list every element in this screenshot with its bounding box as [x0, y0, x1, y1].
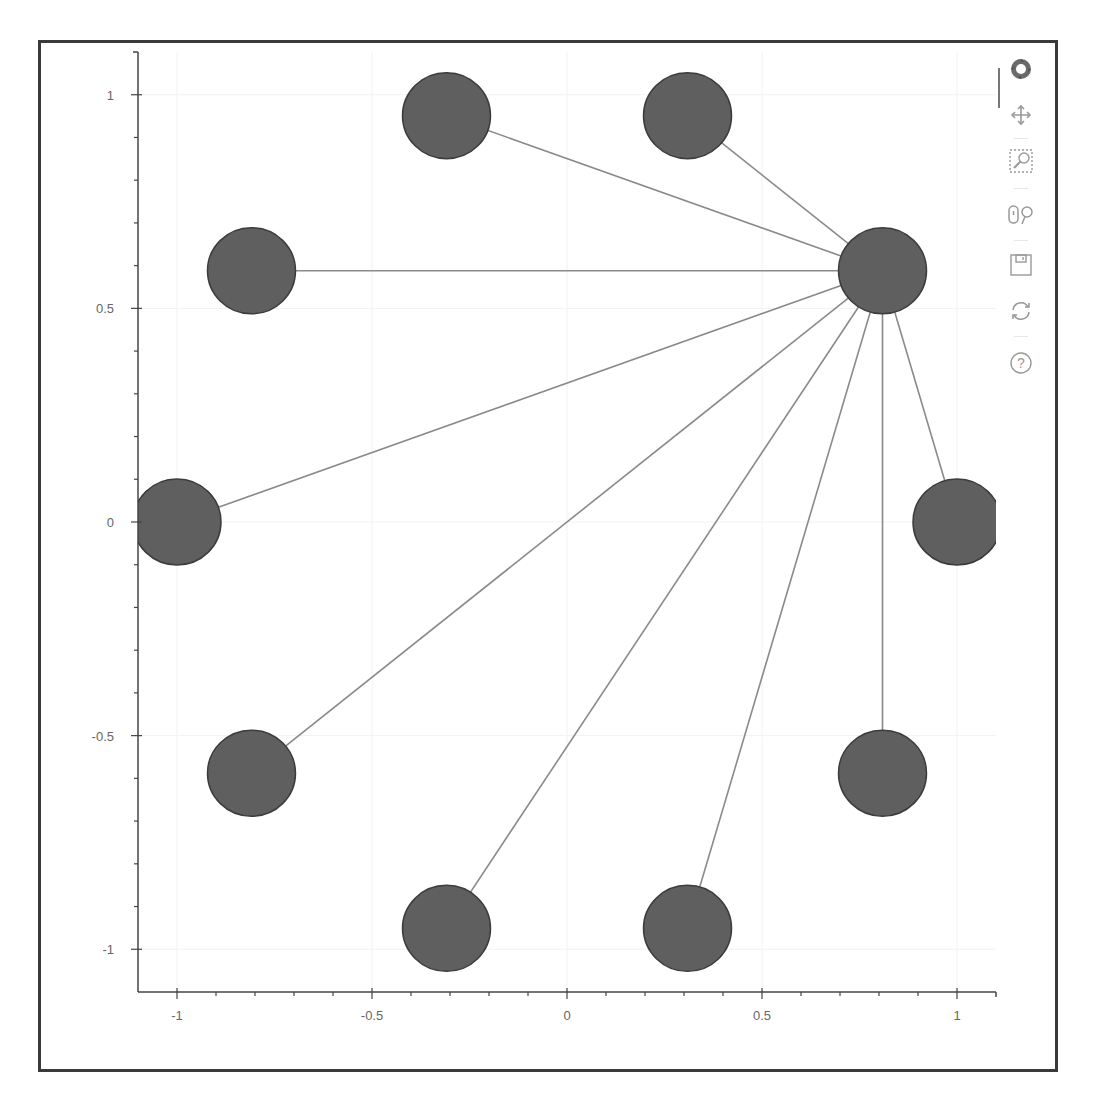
graph-node[interactable] [644, 885, 732, 971]
x-tick-label: -0.5 [361, 1008, 383, 1023]
graph-node[interactable] [839, 228, 927, 314]
x-tick-label: -1 [171, 1008, 183, 1023]
toolbar-separator [1014, 240, 1028, 241]
y-tick-label: 1 [107, 88, 114, 103]
active-tool-indicator [998, 68, 1000, 108]
y-tick-label: -1 [102, 942, 114, 957]
box-zoom-tool-icon[interactable] [1006, 146, 1036, 176]
graph-node[interactable] [133, 479, 221, 565]
x-tick-label: 0 [563, 1008, 570, 1023]
bokeh-logo-icon[interactable] [1006, 54, 1036, 84]
graph-node[interactable] [207, 730, 295, 816]
graph-node[interactable] [644, 73, 732, 159]
graph-node[interactable] [839, 730, 927, 816]
graph-node[interactable] [913, 479, 1001, 565]
y-tick-label: 0.5 [96, 301, 114, 316]
graph-node[interactable] [402, 885, 490, 971]
x-tick-label: 1 [953, 1008, 960, 1023]
toolbar-separator [1014, 188, 1028, 189]
save-tool-icon[interactable] [1006, 250, 1036, 280]
graph-node[interactable] [402, 73, 490, 159]
graph-node[interactable] [207, 228, 295, 314]
pan-tool-icon[interactable] [1006, 100, 1036, 130]
y-tick-label: -0.5 [92, 729, 114, 744]
graph-edge [446, 271, 882, 929]
x-tick-label: 0.5 [753, 1008, 771, 1023]
reset-tool-icon[interactable] [1006, 296, 1036, 326]
wheel-zoom-tool-icon[interactable] [1006, 200, 1036, 230]
y-tick-label: 0 [107, 515, 114, 530]
toolbar-separator [1014, 336, 1028, 337]
svg-text:?: ? [1017, 355, 1025, 371]
toolbar-separator [1014, 138, 1028, 139]
help-tool-icon[interactable]: ? [1006, 348, 1036, 378]
plot-canvas[interactable]: -1-0.500.5110.50-0.5-1 [0, 0, 1096, 1109]
graph-edge [688, 271, 883, 929]
